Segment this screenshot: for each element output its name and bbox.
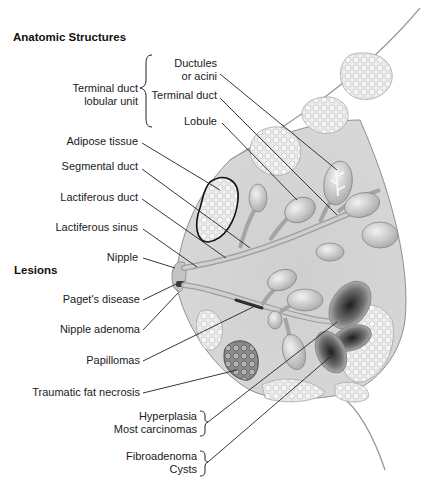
adipose-cluster-upper-1 [340, 53, 392, 100]
label-tdlu-line2: lobular unit [73, 95, 138, 108]
tdlu-bracket [140, 55, 152, 127]
fibroadenoma-bracket [200, 451, 208, 476]
label-nipple-adenoma: Nipple adenoma [60, 323, 140, 336]
label-traumatic-fat-necrosis: Traumatic fat necrosis [32, 386, 140, 399]
label-fibroadenoma: Fibroadenoma [126, 450, 197, 463]
lower-chest-outline [340, 395, 385, 470]
leader-fat-necrosis [143, 370, 237, 393]
hyperplasia-bracket [200, 411, 208, 436]
label-lactiferous-duct: Lactiferous duct [60, 191, 138, 204]
leader-nipple [143, 258, 175, 268]
label-adipose-tissue: Adipose tissue [66, 135, 138, 148]
label-fibroadenoma-cysts: Fibroadenoma Cysts [126, 450, 197, 476]
label-papillomas: Papillomas [86, 354, 140, 367]
label-terminal-duct: Terminal duct [152, 89, 217, 102]
lobule-1 [249, 184, 267, 212]
label-lobule: Lobule [184, 115, 217, 128]
lobule-4 [362, 222, 398, 248]
label-segmental-duct: Segmental duct [62, 160, 138, 173]
label-hyperplasia: Hyperplasia [114, 410, 197, 423]
label-tdlu-line1: Terminal duct [73, 82, 138, 95]
label-ductules-or-acini: Ductules or acini [174, 57, 217, 83]
leader-adipose [142, 143, 220, 190]
label-tdlu: Terminal duct lobular unit [73, 82, 138, 108]
label-hyperplasia-carcinomas: Hyperplasia Most carcinomas [114, 410, 197, 436]
heading-anatomic-structures: Anatomic Structures [13, 31, 126, 43]
label-ductules-line1: Ductules [174, 57, 217, 70]
label-pagets-disease: Paget's disease [63, 293, 140, 306]
adipose-cluster-lower-left [196, 310, 222, 350]
leader-nipple-adenoma [143, 293, 178, 330]
leader-pagets [143, 284, 176, 300]
lobule-5 [316, 243, 344, 261]
label-most-carcinomas: Most carcinomas [114, 423, 197, 436]
lower-lobule-2 [287, 289, 323, 311]
label-lactiferous-sinus: Lactiferous sinus [55, 221, 138, 234]
label-ductules-line2: or acini [174, 70, 217, 83]
heading-lesions: Lesions [14, 264, 57, 276]
breast-anatomy-illustration [0, 0, 434, 493]
lower-lobule-3 [268, 311, 282, 329]
label-nipple: Nipple [107, 251, 138, 264]
label-cysts: Cysts [126, 463, 197, 476]
